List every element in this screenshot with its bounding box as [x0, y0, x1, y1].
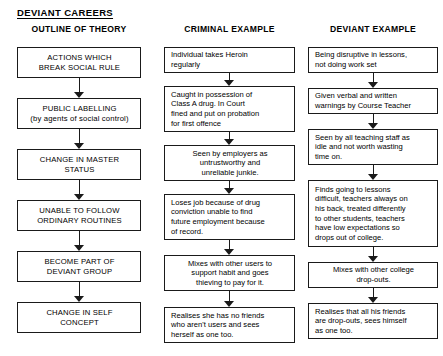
- flow-arrow: [224, 132, 235, 145]
- flow-node-label: ACTIONS WHICH BREAK SOCIAL RULE: [24, 53, 135, 73]
- flow-node: UNABLE TO FOLLOW ORDINARY ROUTINES: [17, 200, 141, 231]
- flow-node-label: Realises she has no friends who aren't u…: [171, 311, 289, 340]
- flow-node-label: Finds going to lessons difficult, teache…: [315, 185, 432, 243]
- flow-node-label: CHANGE IN SELF CONCEPT: [24, 308, 135, 328]
- flow-node: Seen by all teaching staff as idle and n…: [308, 129, 438, 165]
- flow-arrow: [224, 291, 235, 307]
- flow-arrow: [74, 231, 85, 251]
- flow-arrow: [74, 129, 85, 149]
- flow-node: ACTIONS WHICH BREAK SOCIAL RULE: [17, 47, 141, 78]
- flow-node-label: Seen by all teaching staff as idle and n…: [315, 133, 432, 162]
- flow-node: Realises that all his friends are drop-o…: [308, 303, 438, 339]
- flow-node: PUBLIC LABELLING (by agents of social co…: [17, 98, 141, 129]
- arrow-stem: [79, 180, 80, 195]
- flow-arrow: [224, 73, 235, 86]
- flow-node-label: BECOME PART OF DEVIANT GROUP: [24, 257, 135, 277]
- flow-node: Realises she has no friends who aren't u…: [164, 307, 295, 343]
- flow-node-label: PUBLIC LABELLING (by agents of social co…: [24, 104, 135, 124]
- flow-node-label: Realises that all his friends are drop-o…: [315, 307, 432, 336]
- flow-node-label: Seen by employers as untrustworthy and u…: [171, 149, 289, 178]
- flow-node-label: Given verbal and written warnings by Cou…: [315, 91, 432, 110]
- flow-node: Mixes with other users to support habit …: [164, 255, 295, 291]
- flow-arrow: [74, 78, 85, 98]
- flow-node: Finds going to lessons difficult, teache…: [308, 180, 438, 247]
- flow-node: Individual takes Heroin regularly: [164, 47, 295, 73]
- flow-node: Given verbal and written warnings by Cou…: [308, 88, 438, 114]
- flow-arrow: [368, 288, 379, 303]
- column-outline-of-theory: ACTIONS WHICH BREAK SOCIAL RULEPUBLIC LA…: [17, 0, 141, 356]
- flow-node: Caught in possession of Class A drug. In…: [164, 86, 295, 132]
- arrow-stem: [79, 231, 80, 246]
- flow-arrow: [368, 73, 379, 88]
- flowchart-canvas: DEVIANT CAREERS OUTLINE OF THEORY CRIMIN…: [0, 0, 443, 356]
- flow-arrow: [224, 240, 235, 255]
- flow-arrow: [224, 181, 235, 194]
- flow-arrow: [368, 247, 379, 262]
- flow-node: Loses job because of drug conviction una…: [164, 194, 295, 240]
- flow-arrow: [74, 180, 85, 200]
- flow-node: CHANGE IN MASTER STATUS: [17, 149, 141, 180]
- arrow-stem: [79, 282, 80, 297]
- flow-arrow: [368, 114, 379, 129]
- flow-node-label: Mixes with other users to support habit …: [171, 259, 289, 288]
- arrow-stem: [79, 78, 80, 93]
- arrow-stem: [79, 129, 80, 144]
- column-criminal-example: Individual takes Heroin regularlyCaught …: [164, 0, 295, 356]
- flow-arrow: [368, 165, 379, 180]
- flow-node-label: Loses job because of drug conviction una…: [171, 198, 289, 236]
- flow-node-label: Mixes with other college drop-outs.: [315, 265, 432, 284]
- flow-node: BECOME PART OF DEVIANT GROUP: [17, 251, 141, 282]
- flow-node-label: Being disruptive in lessons, not doing w…: [315, 50, 432, 69]
- flow-node-label: Caught in possession of Class A drug. In…: [171, 90, 289, 128]
- flow-node-label: CHANGE IN MASTER STATUS: [24, 155, 135, 175]
- flow-node: Mixes with other college drop-outs.: [308, 262, 438, 288]
- flow-node-label: Individual takes Heroin regularly: [171, 50, 289, 69]
- column-deviant-example: Being disruptive in lessons, not doing w…: [308, 0, 438, 356]
- flow-node-label: UNABLE TO FOLLOW ORDINARY ROUTINES: [24, 206, 135, 226]
- flow-node: CHANGE IN SELF CONCEPT: [17, 302, 141, 333]
- flow-arrow: [74, 282, 85, 302]
- flow-node: Seen by employers as untrustworthy and u…: [164, 145, 295, 181]
- flow-node: Being disruptive in lessons, not doing w…: [308, 47, 438, 73]
